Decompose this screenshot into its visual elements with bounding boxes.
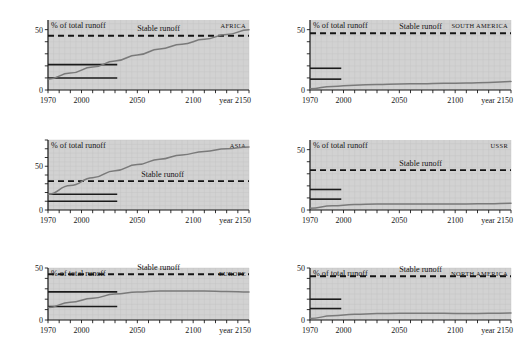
region-label: AFRICA	[220, 22, 246, 29]
y-tick-label: 50	[297, 146, 305, 155]
x-tick-label: year 2150	[219, 326, 251, 335]
y-tick-label: 0	[39, 316, 43, 325]
x-tick-label: 2000	[336, 326, 352, 335]
x-tick-label: 2000	[336, 216, 352, 225]
region-label: USSR	[491, 142, 509, 149]
region-label: SOUTH AMERICA	[451, 22, 508, 29]
y-axis-title: % of total runoff	[51, 141, 106, 150]
x-tick-label: 2100	[185, 96, 201, 105]
chart-panel-africa: 0501970200020502100year 2150% of total r…	[26, 14, 253, 108]
chart-panel-south-america: 0501970200020502100year 2150% of total r…	[288, 14, 515, 108]
y-tick-label: 0	[301, 206, 305, 215]
y-tick-label: 0	[39, 206, 43, 215]
x-tick-label: 2000	[74, 216, 90, 225]
x-tick-label: year 2150	[481, 216, 513, 225]
chart-panel-north-america: 0501970200020502100year 2150% of total r…	[288, 262, 515, 338]
x-tick-label: 2050	[129, 216, 145, 225]
y-tick-label: 50	[35, 264, 43, 273]
x-tick-label: 2000	[74, 326, 90, 335]
runoff-panel-figure: 0501970200020502100year 2150% of total r…	[0, 0, 524, 357]
x-tick-label: 1970	[302, 96, 318, 105]
region-label: NORTH AMERICA	[451, 270, 508, 277]
stable-runoff-label: Stable runoff	[399, 22, 442, 31]
x-tick-label: 2000	[74, 96, 90, 105]
x-tick-label: 1970	[40, 96, 56, 105]
x-tick-label: 1970	[302, 326, 318, 335]
x-tick-label: 2050	[129, 96, 145, 105]
chart-panel-europe: 0501970200020502100year 2150% of total r…	[26, 262, 253, 338]
stable-runoff-label: Stable runoff	[141, 170, 184, 179]
x-tick-label: 2050	[129, 326, 145, 335]
chart-panel-asia: 0501970200020502100year 2150% of total r…	[26, 134, 253, 228]
y-tick-label: 0	[301, 86, 305, 95]
y-tick-label: 50	[297, 26, 305, 35]
y-axis-title: % of total runoff	[313, 21, 368, 30]
y-axis-title: % of total runoff	[51, 21, 106, 30]
y-tick-label: 0	[39, 86, 43, 95]
x-tick-label: 2050	[391, 96, 407, 105]
chart-panel-ussr: 0501970200020502100year 2150% of total r…	[288, 134, 515, 228]
x-tick-label: 2100	[447, 216, 463, 225]
x-tick-label: year 2150	[481, 326, 513, 335]
stable-runoff-label: Stable runoff	[137, 263, 180, 272]
x-tick-label: 2000	[336, 96, 352, 105]
x-tick-label: 2100	[185, 216, 201, 225]
stable-runoff-label: Stable runoff	[137, 24, 180, 33]
x-tick-label: 2100	[447, 96, 463, 105]
y-tick-label: 50	[35, 162, 43, 171]
x-tick-label: year 2150	[219, 96, 251, 105]
y-tick-label: 50	[35, 26, 43, 35]
x-tick-label: 2100	[447, 326, 463, 335]
y-tick-label: 50	[297, 264, 305, 273]
x-tick-label: year 2150	[219, 216, 251, 225]
x-tick-label: year 2150	[481, 96, 513, 105]
x-tick-label: 1970	[40, 326, 56, 335]
x-tick-label: 2100	[185, 326, 201, 335]
y-tick-label: 0	[301, 316, 305, 325]
x-tick-label: 1970	[302, 216, 318, 225]
stable-runoff-label: Stable runoff	[399, 265, 442, 274]
stable-runoff-label: Stable runoff	[399, 159, 442, 168]
y-axis-title: % of total runoff	[313, 141, 368, 150]
x-tick-label: 2050	[391, 326, 407, 335]
x-tick-label: 1970	[40, 216, 56, 225]
x-tick-label: 2050	[391, 216, 407, 225]
